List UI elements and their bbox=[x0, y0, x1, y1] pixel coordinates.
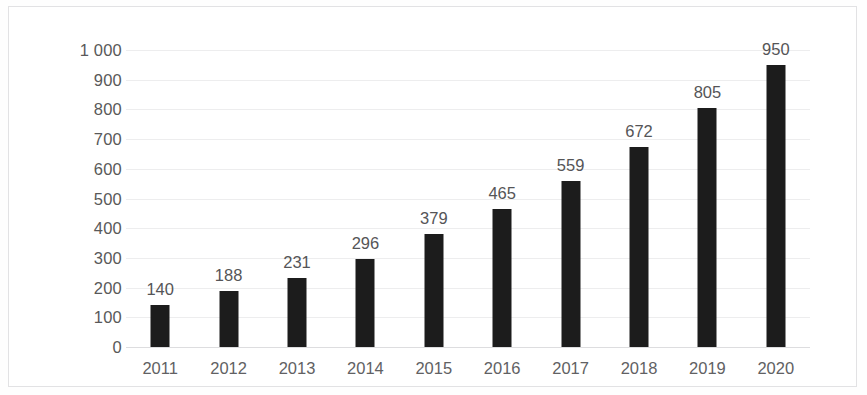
bar-value-label: 296 bbox=[352, 234, 380, 253]
y-axis-tick-label: 800 bbox=[50, 100, 122, 119]
y-axis: 01002003004005006007008009001 000 bbox=[46, 50, 122, 347]
x-axis-tick-label: 2013 bbox=[279, 359, 316, 378]
plot-area: 140188231296379465559672805950 bbox=[126, 50, 810, 347]
x-axis-tick-label: 2017 bbox=[552, 359, 589, 378]
bar-2019[interactable] bbox=[698, 108, 717, 347]
bar-2016[interactable] bbox=[493, 209, 512, 347]
x-axis-tick-label: 2012 bbox=[210, 359, 247, 378]
y-axis-tick-label: 300 bbox=[50, 248, 122, 267]
bar-value-label: 805 bbox=[694, 83, 722, 102]
bar-value-label: 465 bbox=[488, 184, 516, 203]
bar-2014[interactable] bbox=[356, 259, 375, 347]
x-axis-tick-label: 2015 bbox=[415, 359, 452, 378]
bar-2020[interactable] bbox=[766, 65, 785, 347]
x-axis-tick-label: 2018 bbox=[621, 359, 658, 378]
chart-frame: 01002003004005006007008009001 000 140188… bbox=[8, 6, 857, 387]
y-axis-tick-label: 1 000 bbox=[50, 41, 122, 60]
bar-2011[interactable] bbox=[151, 305, 170, 347]
bar-2017[interactable] bbox=[561, 181, 580, 347]
y-axis-tick-label: 0 bbox=[50, 338, 122, 357]
gridline bbox=[126, 347, 810, 348]
bar-2012[interactable] bbox=[219, 291, 238, 347]
y-axis-tick-label: 200 bbox=[50, 278, 122, 297]
x-axis-tick-label: 2014 bbox=[347, 359, 384, 378]
bar-2013[interactable] bbox=[288, 278, 307, 347]
y-axis-tick-label: 500 bbox=[50, 189, 122, 208]
bar-value-label: 950 bbox=[762, 40, 790, 59]
y-axis-tick-label: 900 bbox=[50, 70, 122, 89]
bar-series: 140188231296379465559672805950 bbox=[126, 50, 810, 347]
bar-value-label: 672 bbox=[625, 122, 653, 141]
x-axis-tick-label: 2019 bbox=[689, 359, 726, 378]
bar-value-label: 140 bbox=[146, 280, 174, 299]
x-axis: 2011201220132014201520162017201820192020 bbox=[126, 359, 810, 387]
y-axis-tick-label: 100 bbox=[50, 308, 122, 327]
bar-value-label: 231 bbox=[283, 253, 311, 272]
chart-container: 01002003004005006007008009001 000 140188… bbox=[0, 0, 867, 395]
bar-2015[interactable] bbox=[424, 234, 443, 347]
bar-value-label: 379 bbox=[420, 209, 448, 228]
bar-value-label: 188 bbox=[215, 266, 243, 285]
y-axis-tick-label: 700 bbox=[50, 130, 122, 149]
y-axis-tick-label: 400 bbox=[50, 219, 122, 238]
x-axis-tick-label: 2020 bbox=[757, 359, 794, 378]
x-axis-tick-label: 2016 bbox=[484, 359, 521, 378]
y-axis-tick-label: 600 bbox=[50, 159, 122, 178]
x-axis-tick-label: 2011 bbox=[142, 359, 177, 378]
bar-2018[interactable] bbox=[630, 147, 649, 347]
bar-value-label: 559 bbox=[557, 156, 585, 175]
